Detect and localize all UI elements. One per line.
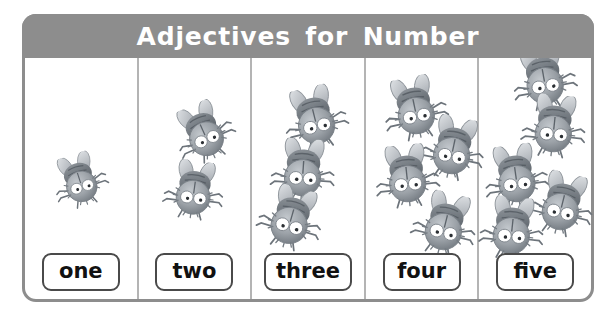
number-word-label[interactable]: five: [496, 253, 574, 291]
number-column-five[interactable]: five: [479, 58, 591, 299]
bug-group-five: [479, 58, 591, 248]
label-slot: two: [139, 253, 251, 291]
number-column-four[interactable]: four: [366, 58, 480, 299]
label-slot: one: [25, 253, 137, 291]
number-column-two[interactable]: two: [139, 58, 253, 299]
number-word-label[interactable]: one: [42, 253, 120, 291]
worksheet-header: Adjectives for Number: [22, 14, 594, 58]
bug-group-two: [139, 58, 251, 248]
number-column-three[interactable]: three: [252, 58, 366, 299]
bug-group-one: [25, 58, 137, 248]
number-column-one[interactable]: one: [25, 58, 139, 299]
label-slot: five: [479, 253, 591, 291]
page-title: Adjectives for Number: [137, 22, 480, 51]
bug-group-four: [366, 58, 478, 248]
bug-icon: [44, 146, 116, 216]
label-slot: three: [252, 253, 364, 291]
number-word-label[interactable]: two: [155, 253, 233, 291]
bug-icon: [158, 157, 229, 225]
worksheet: Adjectives for Number: [0, 0, 616, 325]
label-slot: four: [366, 253, 478, 291]
column-list: one: [25, 58, 591, 299]
bug-group-three: [252, 58, 364, 248]
number-word-label[interactable]: three: [264, 253, 352, 291]
number-word-label[interactable]: four: [383, 253, 461, 291]
